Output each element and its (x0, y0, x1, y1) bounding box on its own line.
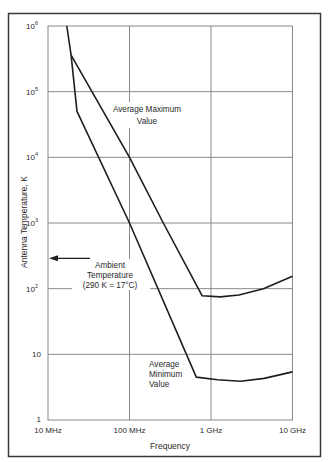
ambient-label-line2: Temperature (87, 271, 133, 280)
min-series-label-line2: Minimum (149, 370, 182, 379)
x-tick-label: 10 GHz (279, 426, 306, 435)
y-tick-label: 1 (37, 415, 42, 424)
ambient-label-line1: Ambient (95, 261, 126, 270)
x-tick-label: 10 MHz (34, 426, 62, 435)
min-series-label-line3: Value (149, 380, 170, 389)
y-tick-label: 106 (26, 20, 38, 31)
y-tick-label: 103 (26, 217, 38, 228)
max-series-label-line1: Average Maximum (113, 105, 181, 114)
min-series-label-line1: Average (149, 360, 180, 369)
x-tick-label: 1 GHz (200, 426, 223, 435)
max-series-label-line2: Value (137, 117, 158, 126)
ambient-label-line3: (290 K = 17°C) (83, 281, 138, 290)
y-tick-label: 104 (26, 151, 38, 162)
x-tick-label: 100 MHz (113, 426, 145, 435)
y-tick-label: 10 (32, 350, 41, 359)
y-tick-label: 102 (26, 283, 38, 294)
x-axis-label: Frequency (150, 441, 191, 451)
data-curves (67, 26, 293, 381)
arrow-left-icon (49, 255, 58, 261)
antenna-temperature-chart: Average Maximum Value Ambient Temperatur… (0, 0, 328, 462)
y-tick-label: 105 (26, 86, 38, 97)
